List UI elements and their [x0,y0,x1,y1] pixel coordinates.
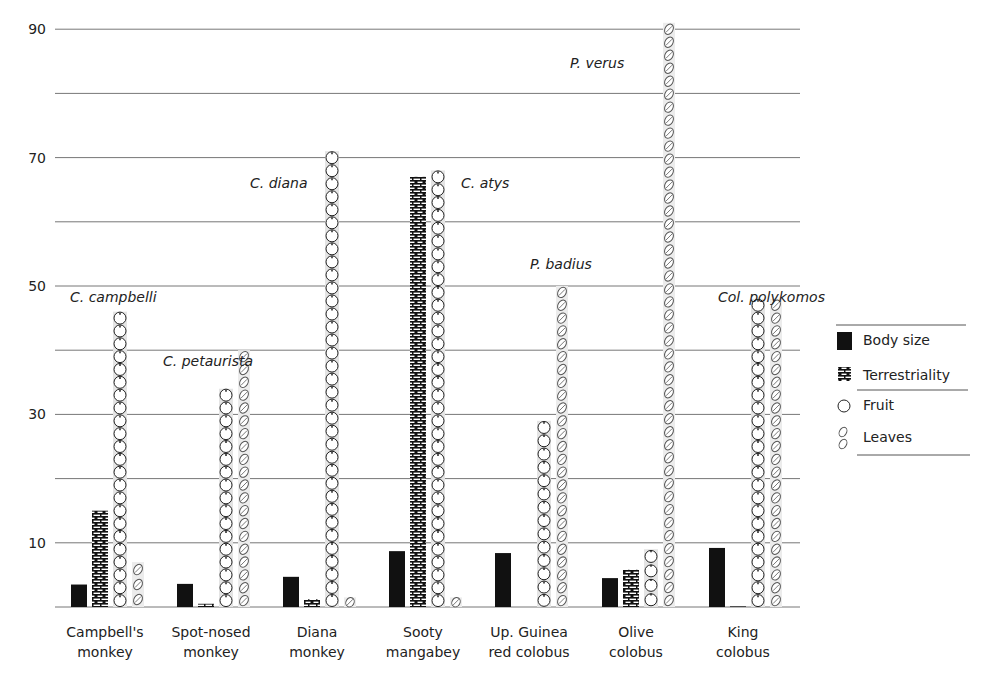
terrestriality-bar [92,511,108,607]
x-category-label: monkey [289,644,345,660]
species-labels: C. campbelliC. petauristaC. dianaC. atys… [70,55,825,369]
species-label: C. campbelli [70,289,157,305]
bar-group [602,23,675,608]
bar-group [71,312,144,607]
legend-label: Leaves [863,429,912,445]
legend-label: Fruit [863,397,895,413]
body-size-bar [495,553,511,607]
y-tick-label: 30 [28,406,46,422]
body-size-bar [71,585,87,607]
y-tick-label: 90 [28,21,46,37]
bar-group [283,151,356,608]
species-label: C. petaurista [163,353,253,369]
x-category-label: monkey [77,644,133,660]
legend: Body sizeTerrestrialityFruitLeaves [836,325,970,455]
species-label: Col. polykomos [718,289,825,305]
body-size-bar [602,578,618,607]
solid-square-icon [837,332,852,350]
fruit-icon [838,400,850,412]
x-category-label: Diana [297,624,338,640]
x-category-label: King [728,624,759,640]
x-category-label: Spot-nosed [171,624,250,640]
bar-group [709,298,782,607]
x-category-label: mangabey [386,644,460,660]
gridlines [55,29,800,607]
species-label: C. atys [461,175,509,191]
x-category-label: red colobus [488,644,569,660]
x-category-label: Olive [618,624,654,640]
species-label: C. diana [250,175,307,191]
legend-item: Body size [837,332,930,350]
species-label: P. badius [530,256,592,272]
x-category-label: colobus [609,644,663,660]
terrestriality-bar [410,177,426,607]
body-size-bar [389,551,405,607]
y-tick-label: 50 [28,278,46,294]
terrestriality-bar [623,570,639,607]
brick-icon [838,367,851,381]
body-size-bar [709,548,725,607]
terrestriality-bar [304,599,320,607]
legend-item: Leaves [837,426,911,450]
species-label: P. verus [570,55,624,71]
x-category-label: Sooty [403,624,443,640]
legend-item: Terrestriality [838,367,950,383]
terrestriality-bar [198,604,214,607]
leaf-icon [837,426,848,438]
x-axis-labels: Campbell'smonkeySpot-nosedmonkeyDianamon… [66,624,770,660]
y-tick-label: 10 [28,535,46,551]
terrestriality-bar [730,606,746,607]
legend-label: Body size [863,332,930,348]
bar-group [495,286,568,608]
x-category-label: monkey [183,644,239,660]
x-category-label: colobus [716,644,770,660]
y-tick-label: 70 [28,150,46,166]
legend-item: Fruit [838,397,895,413]
body-size-bar [177,584,193,607]
primate-diet-chart: 1030507090 Campbell'smonkeySpot-nosedmon… [0,0,989,675]
y-axis-ticks: 1030507090 [28,21,46,551]
body-size-bar [283,577,299,607]
legend-label: Terrestriality [862,367,950,383]
x-category-label: Up. Guinea [490,624,568,640]
bars [71,23,782,609]
x-category-label: Campbell's [66,624,143,640]
